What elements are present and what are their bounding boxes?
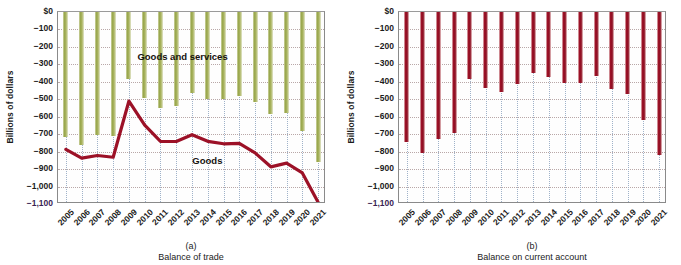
panel-a-caption-text: Balance of trade [57,252,325,263]
bar [578,12,583,83]
bar [404,12,409,142]
bar [594,12,599,76]
bar [609,12,614,89]
y-axis-tick-label: −1,000 [27,181,53,191]
bar [467,12,472,79]
bar [420,12,425,153]
panel-b-caption-text: Balance on current account [398,252,666,263]
panel-a-y-axis-title: Billions of dollars [2,11,18,203]
bar [436,12,441,139]
panel-b-caption: (b) Balance on current account [398,241,666,263]
bar [483,12,488,88]
series-annotation-label: Goods [192,155,222,166]
panel-b-plot-area [398,11,666,203]
bar [546,12,551,77]
panel-b-caption-id: (b) [398,241,666,252]
y-axis-tick-label: −600 [34,111,53,121]
panel-a-caption: (a) Balance of trade [57,241,325,263]
bar [562,12,567,83]
goods-line-series [58,12,325,203]
bar [515,12,520,84]
y-axis-tick-label: −300 [34,58,53,68]
series-annotation-label: Goods and services [137,51,227,62]
y-axis-tick-label: −100 [375,23,394,33]
bar [452,12,457,133]
y-axis-tick-label: −500 [34,93,53,103]
goods-line-path [66,101,318,202]
y-axis-tick-label: −100 [34,23,53,33]
y-axis-tick-label: $0 [385,6,394,16]
y-axis-tick-label: −1,100 [27,198,53,208]
y-axis-tick-label: −700 [375,128,394,138]
panel-a-plot-area [57,11,325,203]
y-axis-tick-label: −1,000 [368,181,394,191]
y-axis-tick-label: −900 [375,163,394,173]
y-axis-tick-label: $0 [44,6,53,16]
bar [531,12,536,73]
y-axis-tick-label: −700 [34,128,53,138]
bar [641,12,646,120]
panel-b-balance-on-current-account: Billions of dollars (b) Balance on curre… [341,0,681,265]
y-axis-tick-label: −1,100 [368,198,394,208]
y-axis-tick-label: −800 [34,146,53,156]
panel-a-caption-id: (a) [57,241,325,252]
bar [625,12,630,94]
y-axis-tick-label: −400 [34,76,53,86]
y-axis-tick-label: −400 [375,76,394,86]
bar [499,12,504,92]
y-axis-tick-label: −800 [375,146,394,156]
panel-a-balance-of-trade: Billions of dollars (a) Balance of trade… [0,0,340,265]
y-axis-tick-label: −900 [34,163,53,173]
y-axis-tick-label: −200 [375,41,394,51]
y-axis-tick-label: −500 [375,93,394,103]
panel-b-y-axis-title: Billions of dollars [343,11,359,203]
figure-root: Billions of dollars (a) Balance of trade… [0,0,681,265]
y-axis-tick-label: −600 [375,111,394,121]
y-axis-tick-label: −300 [375,58,394,68]
bar [657,12,662,155]
y-axis-tick-label: −200 [34,41,53,51]
